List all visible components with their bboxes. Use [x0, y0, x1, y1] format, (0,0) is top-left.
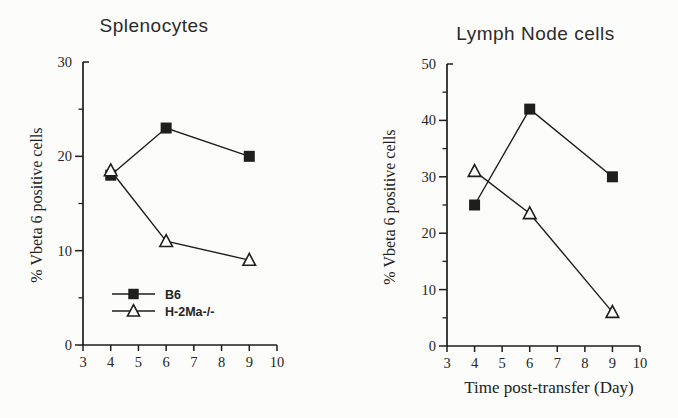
x-tick-label: 7	[190, 354, 197, 370]
axis-lines	[83, 62, 277, 345]
x-tick-label: 8	[218, 354, 225, 370]
data-point-filled-square	[128, 289, 138, 299]
data-point-open-triangle	[468, 165, 481, 177]
right-chart-title: Lymph Node cells	[443, 23, 628, 45]
y-tick-label: 20	[58, 148, 73, 164]
x-tick-label: 10	[270, 354, 285, 370]
x-tick-label: 3	[443, 355, 450, 371]
y-tick-label: 30	[58, 54, 73, 70]
right-chart: 01020304050345678910	[422, 56, 648, 371]
x-tick-label: 4	[471, 355, 479, 371]
data-point-filled-square	[524, 104, 535, 115]
charts-canvas: 0102030345678910B6H-2Ma-/-01020304050345…	[0, 0, 678, 418]
y-tick-label: 10	[58, 243, 73, 259]
data-point-filled-square	[607, 171, 618, 182]
y-tick-label: 0	[65, 337, 72, 353]
series-line-b6	[475, 109, 613, 205]
x-tick-label: 8	[581, 355, 588, 371]
y-tick-label: 10	[422, 282, 437, 298]
y-tick-label: 0	[429, 338, 436, 354]
left-chart: 0102030345678910B6H-2Ma-/-	[58, 54, 285, 370]
y-tick-label: 40	[422, 112, 437, 128]
legend: B6H-2Ma-/-	[112, 288, 214, 319]
x-tick-label: 3	[79, 354, 86, 370]
figure-panel: 0102030345678910B6H-2Ma-/-01020304050345…	[0, 0, 678, 418]
x-tick-label: 5	[499, 355, 506, 371]
y-tick-label: 30	[422, 169, 437, 185]
data-point-filled-square	[161, 123, 172, 134]
x-tick-label: 9	[246, 354, 253, 370]
x-tick-label: 6	[526, 355, 533, 371]
legend-label: B6	[165, 288, 181, 302]
x-tick-label: 6	[163, 354, 170, 370]
series-line-h-2ma-	[475, 171, 613, 312]
x-axis-label: Time post-transfer (Day)	[439, 378, 659, 398]
y-tick-label: 20	[422, 225, 437, 241]
series-line-h-2ma-	[111, 170, 250, 260]
y-tick-label: 50	[422, 56, 437, 72]
data-point-filled-square	[469, 200, 480, 211]
legend-label: H-2Ma-/-	[165, 305, 214, 319]
data-point-open-triangle	[523, 207, 536, 219]
right-y-axis-label: % Vbeta 6 positive cells	[381, 92, 401, 322]
x-tick-label: 5	[135, 354, 142, 370]
x-tick-label: 7	[554, 355, 561, 371]
x-tick-label: 4	[107, 354, 115, 370]
data-point-filled-square	[244, 151, 255, 162]
left-y-axis-label: % Vbeta 6 positive cells	[28, 90, 48, 320]
series-line-b6	[111, 128, 250, 175]
x-tick-label: 9	[609, 355, 616, 371]
left-chart-title: Splenocytes	[84, 15, 224, 37]
x-tick-label: 10	[633, 355, 648, 371]
